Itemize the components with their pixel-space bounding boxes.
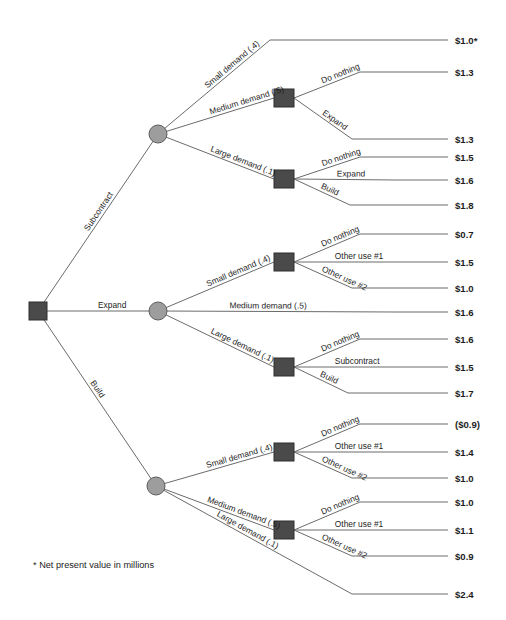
branch-label-group-b-sub-med-donothing: Do nothing [320, 61, 362, 85]
decision-exp-small[interactable] [274, 253, 294, 271]
terminal-value-t6: $1.8 [455, 200, 474, 211]
branch-label-group-b-sub-lrg-build: Build [320, 181, 341, 198]
root-decision-node[interactable] [29, 302, 47, 320]
branch-label-b-exp-sml-other2: Other use #2 [321, 264, 370, 293]
terminal-value-t12: $1.5 [455, 362, 474, 373]
branch-label-group-b-bld-med-other1: Other use #1 [335, 519, 384, 529]
terminal-value-t11: $1.6 [455, 334, 474, 345]
terminal-value-t8: $1.5 [455, 257, 474, 268]
branch-label-group-b-exp-lrg-subcontract: Subcontract [335, 356, 380, 366]
terminal-value-t10: $1.6 [455, 307, 474, 318]
branch-label-b-sub-lrg-build: Build [320, 181, 341, 198]
branch-label-b-subcontract: Subcontract [82, 189, 116, 232]
branch-label-b-bld-sml-other1: Other use #1 [335, 441, 384, 451]
branch-label-group-b-exp-sml-other1: Other use #1 [335, 251, 384, 261]
branch-label-group-b-bld-sml-other2: Other use #2 [321, 454, 370, 483]
terminal-value-t20: $2.4 [455, 589, 474, 600]
branch-label-group-b-subcontract: Subcontract [82, 189, 116, 232]
decision-sub-large[interactable] [274, 170, 294, 188]
terminal-value-t7: $0.7 [455, 229, 474, 240]
branch-line-b-exp-medium [158, 311, 396, 312]
nodes-group [29, 89, 294, 539]
terminal-value-t13: $1.7 [455, 388, 474, 399]
decision-bld-small[interactable] [274, 443, 294, 461]
terminal-value-t15: $1.4 [455, 447, 474, 458]
terminal-value-t16: $1.0 [455, 473, 474, 484]
branch-label-group-b-sub-large: Large demand (.1) [209, 144, 277, 178]
branch-label-group-b-exp-large: Large demand (.1) [209, 326, 276, 365]
terminal-value-t4: $1.5 [455, 152, 474, 163]
terminal-value-t5: $1.6 [455, 175, 474, 186]
terminal-value-t18: $1.1 [455, 525, 474, 536]
terminal-value-t14: ($0.9) [455, 419, 480, 430]
branch-label-b-sub-lrg-donothing: Do nothing [320, 146, 362, 168]
branch-label-b-exp-sml-other1: Other use #1 [335, 251, 384, 261]
decision-tree-diagram: SubcontractExpandBuildSmall demand (.4)M… [0, 0, 506, 620]
footnote-text: * Net present value in millions [33, 560, 154, 570]
branch-line-b-sub-lrg-expand [294, 179, 396, 180]
branch-label-b-sub-small: Small demand (.4) [202, 38, 261, 90]
branch-label-group-b-bld-med-other2: Other use #2 [321, 532, 370, 561]
branch-line-b-bld-medium [156, 486, 274, 530]
branch-line-b-subcontract [38, 134, 158, 311]
branch-label-b-bld-med-other2: Other use #2 [321, 532, 370, 561]
terminal-lines-group [270, 40, 448, 594]
branch-label-group-b-bld-sml-other1: Other use #1 [335, 441, 384, 451]
terminal-value-t17: $1.0 [455, 497, 474, 508]
branch-line-b-sub-small [158, 40, 270, 134]
terminal-value-t2: $1.3 [455, 67, 474, 78]
branch-label-group-b-sub-small: Small demand (.4) [202, 38, 261, 90]
branch-label-b-sub-med-donothing: Do nothing [320, 61, 362, 85]
terminal-value-t1: $1.0* [455, 35, 478, 46]
branch-label-group-b-exp-lrg-build: Build [319, 369, 340, 386]
terminal-labels-group: $1.0*$1.3$1.3$1.5$1.6$1.8$0.7$1.5$1.0$1.… [455, 35, 480, 600]
terminal-value-t3: $1.3 [455, 134, 474, 145]
branch-label-b-bld-small: Small demand (.4) [205, 441, 274, 470]
branch-label-b-expand: Expand [98, 300, 127, 310]
branch-label-group-b-exp-small: Small demand (.4) [205, 253, 272, 289]
terminal-value-t9: $1.0 [455, 283, 474, 294]
branch-label-b-exp-lrg-build: Build [319, 369, 340, 386]
branch-label-b-sub-large: Large demand (.1) [209, 144, 277, 178]
branch-line-b-sub-large [158, 134, 274, 179]
branch-line-b-exp-large [158, 311, 274, 367]
chance-expand[interactable] [149, 302, 167, 320]
branch-labels-group: SubcontractExpandBuildSmall demand (.4)M… [82, 38, 384, 560]
branch-label-b-bld-sml-other2: Other use #2 [321, 454, 370, 483]
branch-label-group-b-sub-lrg-donothing: Do nothing [320, 146, 362, 168]
branch-label-b-exp-small: Small demand (.4) [205, 253, 272, 289]
terminal-value-t19: $0.9 [455, 551, 474, 562]
branch-label-group-b-sub-lrg-expand: Expand [337, 168, 366, 178]
branch-label-group-b-exp-medium: Medium demand (.5) [229, 300, 307, 310]
branch-label-group-b-expand: Expand [98, 300, 127, 310]
branch-label-b-exp-lrg-subcontract: Subcontract [335, 356, 380, 366]
branch-label-b-sub-lrg-expand: Expand [337, 168, 366, 178]
branch-label-b-build: Build [88, 378, 107, 399]
branch-label-group-b-bld-small: Small demand (.4) [205, 441, 274, 470]
branch-line-b-sub-medium [158, 98, 274, 134]
branch-line-b-build [38, 311, 156, 486]
chance-subcontract[interactable] [149, 125, 167, 143]
branch-label-b-exp-medium: Medium demand (.5) [229, 300, 307, 310]
branch-label-group-b-exp-sml-other2: Other use #2 [321, 264, 370, 293]
decision-exp-large[interactable] [274, 358, 294, 376]
branch-label-group-b-build: Build [88, 378, 107, 399]
branch-label-b-bld-med-other1: Other use #1 [335, 519, 384, 529]
chance-build[interactable] [147, 477, 165, 495]
branch-label-b-exp-large: Large demand (.1) [209, 326, 276, 365]
